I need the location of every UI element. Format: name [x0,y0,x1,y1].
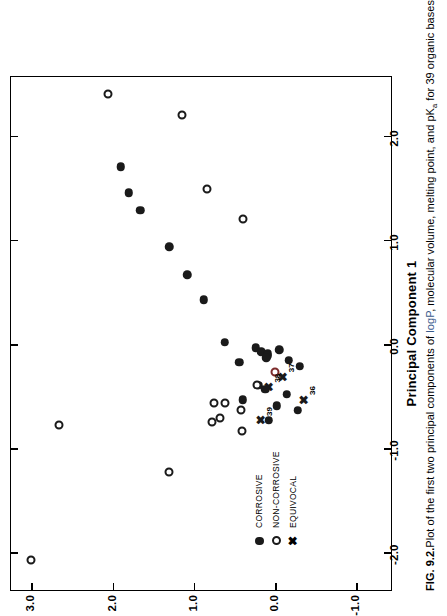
data-point-corrosive [136,206,145,215]
data-point-non-corrosive [178,110,187,119]
y-axis-tick-label: 1.0 [187,595,199,612]
data-point-non-corrosive [165,468,174,477]
open-circle-icon [267,533,285,549]
data-point-non-corrosive [215,414,224,423]
x-axis-tick-label: 2.0 [388,130,400,147]
data-point-corrosive [295,362,304,371]
data-point-label: 37 [287,363,296,372]
x-axis-tick-label: -2.0 [388,544,400,565]
data-point-corrosive [294,406,303,415]
y-axis-tick-label: 2.0 [106,595,118,612]
data-point-non-corrosive [237,426,246,435]
data-point-non-corrosive [202,185,211,194]
x-axis-tick-top [10,552,18,554]
figure-caption: FIG. 9.2.Plot of the first two principal… [424,11,440,591]
data-point-corrosive [165,242,174,251]
caption-figure-number: FIG. 9.2. [424,548,436,591]
data-point-equivocal: ✖ [298,394,309,405]
x-axis-title: Principal Component 1 [404,76,419,591]
x-axis-tick-label: 0.0 [388,338,400,355]
x-axis-tick-top [10,240,18,242]
plot-frame: ✖37✖38✖36✖39 [10,76,392,591]
cross-icon: ✖ [284,533,302,549]
legend-item-label: EQUIVOCAL [288,476,298,528]
data-point-non-corrosive [54,420,63,429]
legend-item: NON-CORROSIVE [267,451,284,549]
data-point-corrosive [238,395,247,404]
x-axis-tick-label: 1.0 [388,234,400,251]
data-point-non-corrosive [210,398,219,407]
y-axis-tick [113,583,115,591]
data-point-corrosive [116,162,125,171]
data-point-non-corrosive [207,418,216,427]
data-point-corrosive [125,188,134,197]
y-axis-tick-label: 3.0 [24,595,36,612]
caption-text-part1: Plot of the first two principal componen… [424,333,436,548]
y-axis-tick [194,583,196,591]
y-axis-tick [275,583,277,591]
data-point-non-corrosive [27,555,36,564]
legend-item-label: CORROSIVE [254,474,264,528]
y-axis-tick [356,583,358,591]
data-point-corrosive [275,345,284,354]
data-point-corrosive [183,271,192,280]
filled-circle-icon [250,533,268,549]
legend-item: CORROSIVE [250,451,267,549]
data-point-equivocal: ✖ [255,415,266,426]
x-axis-tick-top [10,136,18,138]
data-point-label: 38 [272,374,281,383]
plot-area: ✖37✖38✖36✖39 [11,77,391,590]
data-point-label: 39 [264,407,273,416]
caption-text-part2: , molecular volume, melting point, and p… [424,108,436,312]
data-point-non-corrosive [220,398,229,407]
data-point-non-corrosive [237,406,246,415]
data-point-corrosive [262,354,271,363]
y-axis-tick [31,583,33,591]
data-point-corrosive [235,358,244,367]
x-axis-tick-top [10,448,18,450]
data-point-non-corrosive [103,89,112,98]
data-point-corrosive [221,338,230,347]
data-point-corrosive [273,402,282,411]
data-point-non-corrosive [238,214,247,223]
x-axis-tick-label: -1.0 [388,440,400,461]
y-axis-tick-label: -1.0 [349,595,361,616]
data-point-corrosive [199,295,208,304]
data-point-label: 36 [307,386,316,395]
x-axis-tick-top [10,344,18,346]
data-point-corrosive [282,390,291,399]
legend-item: ✖EQUIVOCAL [284,451,301,549]
y-axis-tick-label: 0.0 [268,595,280,612]
chart-legend: CORROSIVENON-CORROSIVE✖EQUIVOCAL [250,451,301,549]
caption-text-part3: for 39 organic bases. [424,0,436,104]
caption-logp-term: logP [424,312,436,333]
data-point-equivocal: ✖ [263,382,274,393]
legend-item-label: NON-CORROSIVE [271,451,281,528]
caption-pka-subscript: a [430,104,439,108]
